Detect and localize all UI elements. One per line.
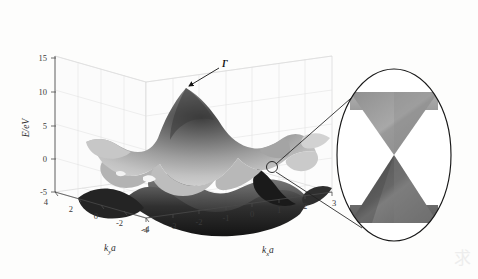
z-tick-labels: 15 10 5 0 -5 <box>39 53 48 197</box>
x-tick-2: 2 <box>303 201 307 211</box>
x-tick-1: 1 <box>277 205 281 215</box>
x-axis-title-a: a <box>269 245 274 255</box>
band-structure-figure: 15 10 5 0 -5 4 2 0 -2 -4 -4 -3 -2 -1 0 1… <box>0 0 478 279</box>
x-tick-0: 0 <box>250 209 254 219</box>
z-tick-5: 5 <box>43 121 47 131</box>
y-axis-title: kya <box>104 243 116 255</box>
y-tick-neg2: -2 <box>116 218 123 228</box>
watermark: 求 <box>454 250 472 267</box>
y-tick-0: 0 <box>94 211 98 221</box>
x-tick-neg4: -4 <box>142 224 150 234</box>
gamma-label: Γ <box>221 59 228 69</box>
z-axis-title: E/eV <box>21 118 31 139</box>
x-tick-3: 3 <box>332 198 336 208</box>
z-tick-10: 10 <box>39 87 48 97</box>
y-tick-2: 2 <box>69 204 73 214</box>
y-tick-4: 4 <box>44 197 49 207</box>
z-tick-0: 0 <box>43 154 47 164</box>
x-tick-neg3: -3 <box>169 221 176 231</box>
z-tick-15: 15 <box>39 53 48 63</box>
dirac-cone-inset <box>337 69 451 241</box>
x-axis-title: kxa <box>262 245 274 257</box>
y-axis-title-a: a <box>111 243 116 253</box>
z-tick-neg5: -5 <box>40 187 47 197</box>
x-tick-neg1: -1 <box>222 213 229 223</box>
figure-container: 15 10 5 0 -5 4 2 0 -2 -4 -4 -3 -2 -1 0 1… <box>0 0 478 279</box>
x-tick-neg2: -2 <box>195 217 202 227</box>
